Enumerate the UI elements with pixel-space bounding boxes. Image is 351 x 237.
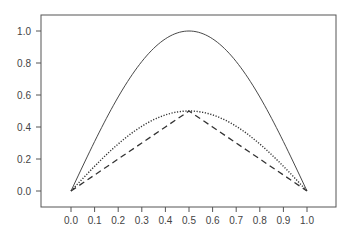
x-tick-label: 0.2 <box>111 215 125 226</box>
y-tick-label: 0.6 <box>17 90 31 101</box>
y-tick-label: 0.0 <box>17 186 31 197</box>
x-tick-label: 0.7 <box>229 215 243 226</box>
x-tick-label: 0.5 <box>182 215 196 226</box>
x-tick-label: 0.0 <box>64 215 78 226</box>
x-tick-label: 0.4 <box>158 215 172 226</box>
x-axis: 0.00.10.20.30.40.50.60.70.80.91.0 <box>64 207 314 226</box>
line-chart: 0.00.20.40.60.81.0 0.00.10.20.30.40.50.6… <box>0 0 351 237</box>
y-axis: 0.00.20.40.60.81.0 <box>17 26 41 197</box>
dashed-line-series <box>71 111 307 191</box>
x-tick-label: 0.3 <box>135 215 149 226</box>
x-tick-label: 0.9 <box>276 215 290 226</box>
x-tick-label: 1.0 <box>300 215 314 226</box>
y-tick-label: 1.0 <box>17 26 31 37</box>
series-group <box>71 31 307 191</box>
y-tick-label: 0.8 <box>17 58 31 69</box>
dotted-line-series <box>71 111 307 191</box>
y-tick-label: 0.2 <box>17 154 31 165</box>
x-tick-label: 0.6 <box>206 215 220 226</box>
y-tick-label: 0.4 <box>17 122 31 133</box>
x-tick-label: 0.8 <box>253 215 267 226</box>
x-tick-label: 0.1 <box>88 215 102 226</box>
